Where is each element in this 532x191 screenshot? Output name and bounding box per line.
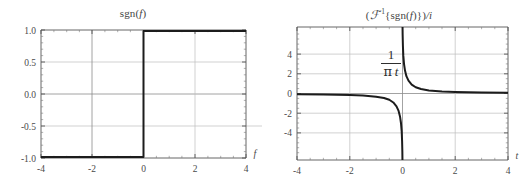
xtick-label-neg2: -2 bbox=[88, 164, 96, 174]
annotation-numerator: 1 bbox=[381, 48, 402, 62]
annotation-denominator: π t bbox=[381, 65, 402, 79]
ytick-label-0_5: 0.5 bbox=[24, 58, 36, 68]
panel-inverse-ft: (ℱ-1{sgn(f)})/i bbox=[266, 0, 532, 191]
ytick-label-neg2: -2 bbox=[284, 109, 292, 119]
xtick-label-0: 0 bbox=[400, 166, 405, 176]
xtick-label-neg2: -2 bbox=[346, 166, 354, 176]
sgn-gridlines bbox=[41, 30, 262, 158]
panel-sgn: sgn(f) bbox=[0, 0, 266, 191]
ytick-label-neg4: -4 bbox=[284, 128, 292, 138]
xtick-label-2: 2 bbox=[193, 164, 198, 174]
inverse-ft-plot-canvas: 4 2 0 -2 -4 -4 -2 0 2 4 t bbox=[266, 0, 532, 191]
ytick-label-1_0: 1.0 bbox=[24, 26, 36, 36]
annotation-denominator-var: t bbox=[395, 64, 399, 79]
ytick-label-0: 0 bbox=[287, 89, 292, 99]
ytick-label-neg1_0: -1.0 bbox=[21, 154, 36, 164]
figure-container: sgn(f) bbox=[0, 0, 532, 191]
annotation-one-over-pi-t: 1 π t bbox=[374, 48, 408, 79]
xaxis-label-t: t bbox=[516, 150, 519, 161]
xtick-label-0: 0 bbox=[141, 164, 146, 174]
ytick-label-neg0_5: -0.5 bbox=[21, 122, 36, 132]
pi-symbol-icon: π bbox=[384, 64, 393, 79]
xtick-label-neg4: -4 bbox=[37, 164, 45, 174]
xtick-label-4: 4 bbox=[506, 166, 511, 176]
sgn-plot-canvas: 1.0 0.5 0.0 -0.5 -1.0 -4 -2 0 2 4 f bbox=[0, 0, 266, 191]
ytick-label-4: 4 bbox=[287, 50, 292, 60]
xaxis-label-f: f bbox=[254, 148, 258, 159]
xtick-label-neg4: -4 bbox=[293, 166, 301, 176]
ytick-label-2: 2 bbox=[287, 69, 292, 79]
xtick-label-4: 4 bbox=[244, 164, 249, 174]
ytick-label-0_0: 0.0 bbox=[24, 90, 36, 100]
xtick-label-2: 2 bbox=[453, 166, 458, 176]
